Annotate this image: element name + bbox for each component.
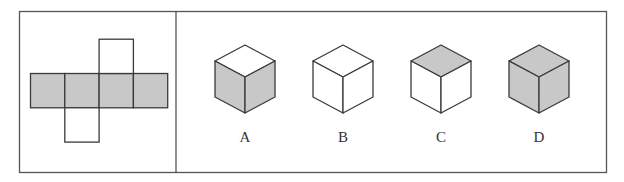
option-label: A xyxy=(240,129,251,146)
option-label: D xyxy=(534,129,545,146)
cube-net xyxy=(31,39,168,142)
cube-option-c[interactable] xyxy=(411,45,471,113)
option-label: C xyxy=(436,129,446,146)
option-label: B xyxy=(338,129,348,146)
net-square xyxy=(31,74,65,108)
cube-options xyxy=(215,45,569,113)
net-bottom-flap xyxy=(65,108,99,142)
net-square xyxy=(133,74,167,108)
cube-option-b[interactable] xyxy=(313,45,373,113)
puzzle-figure xyxy=(0,0,624,182)
cube-option-a[interactable] xyxy=(215,45,275,113)
cube-option-d[interactable] xyxy=(509,45,569,113)
net-square xyxy=(65,74,99,108)
net-square xyxy=(99,74,133,108)
net-top-flap xyxy=(99,39,133,73)
